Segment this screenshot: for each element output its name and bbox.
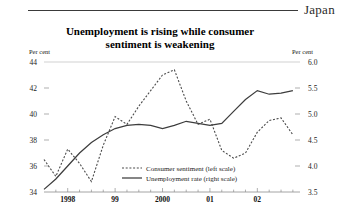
right-axis-tick-label: 6.0 <box>308 58 318 67</box>
right-axis-tick-label: 5.0 <box>308 110 318 119</box>
legend-item-label: Consumer sentiment (left scale) <box>146 165 236 173</box>
x-axis-tick-label: 99 <box>111 195 119 204</box>
left-axis-tick-label: 44 <box>30 58 38 67</box>
x-axis-tick-label: 2000 <box>155 195 170 204</box>
left-axis-tick-label: 42 <box>30 84 38 93</box>
x-axis-tick-label: 01 <box>206 195 214 204</box>
left-axis-tick-label: 40 <box>30 110 38 119</box>
right-axis-tick-label: 4.0 <box>308 162 318 171</box>
right-axis-tick-label: 4.5 <box>308 136 318 145</box>
left-axis-tick-label: 34 <box>30 188 38 197</box>
left-axis-tick-label: 36 <box>30 162 38 171</box>
left-axis-tick-label: 38 <box>30 136 38 145</box>
x-axis-tick-label: 02 <box>254 195 262 204</box>
chart-plot: 3436384042443.54.04.55.05.56.01998992000… <box>0 0 341 218</box>
right-axis-tick-label: 3.5 <box>308 188 318 197</box>
right-axis-tick-label: 5.5 <box>308 84 318 93</box>
legend-item-label: Unemployment rate (right scale) <box>146 175 238 183</box>
chart-page: Japan Unemployment is rising while consu… <box>0 0 341 218</box>
x-axis-tick-label: 1998 <box>60 195 75 204</box>
